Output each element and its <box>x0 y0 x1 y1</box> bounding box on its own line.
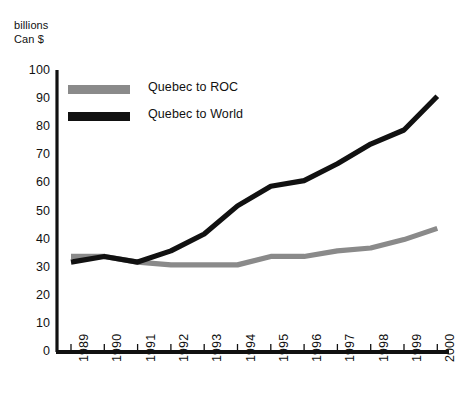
series-line-quebec-to-world <box>71 96 437 262</box>
data-series-group <box>71 96 437 265</box>
plot-area <box>0 0 468 409</box>
x-axis-ticks <box>71 344 437 350</box>
line-chart: billions Can $ 0102030405060708090100 19… <box>0 0 468 409</box>
chart-axes <box>56 70 449 352</box>
